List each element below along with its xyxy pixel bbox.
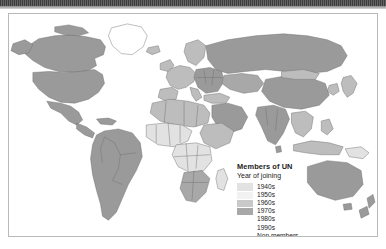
legend-row-non-members[interactable]: Non members (237, 232, 313, 237)
region-russia[interactable] (206, 34, 347, 74)
legend-swatch-1970s (237, 208, 253, 215)
legend-label-non-members: Non members (257, 232, 298, 237)
legend-label-1950s: 1950s (257, 191, 275, 199)
legend-subtitle: Year of joining (237, 171, 313, 180)
legend-swatch-1960s (237, 200, 253, 207)
legend-label-1990s: 1990s (257, 224, 275, 232)
world-map[interactable] (9, 14, 377, 236)
title-bar-shading (0, 6, 386, 9)
window-title-bar (0, 0, 386, 9)
legend-swatch-non-members (237, 232, 253, 237)
legend-row-1980s[interactable]: 1980s (237, 215, 313, 223)
region-tasmania[interactable] (343, 203, 352, 210)
legend-label-1980s: 1980s (257, 215, 275, 223)
legend-label-1940s: 1940s (257, 183, 275, 191)
map-frame: Members of UN Year of joining 1940s 1950… (8, 13, 378, 237)
region-sri-lanka[interactable] (276, 146, 282, 153)
legend-swatch-1990s (237, 224, 253, 231)
legend-label-1970s: 1970s (257, 207, 275, 215)
legend-row-1940s[interactable]: 1940s (237, 183, 313, 191)
legend-swatch-1950s (237, 192, 253, 199)
legend-row-1990s[interactable]: 1990s (237, 223, 313, 231)
legend-swatch-1980s (237, 216, 253, 223)
map-legend: Members of UN Year of joining 1940s 1950… (237, 162, 313, 237)
legend-row-1960s[interactable]: 1960s (237, 199, 313, 207)
legend-swatch-1940s (237, 183, 253, 190)
legend-title: Members of UN (237, 162, 313, 171)
legend-label-1960s: 1960s (257, 199, 275, 207)
legend-row-1950s[interactable]: 1950s (237, 191, 313, 199)
legend-row-1970s[interactable]: 1970s (237, 207, 313, 215)
